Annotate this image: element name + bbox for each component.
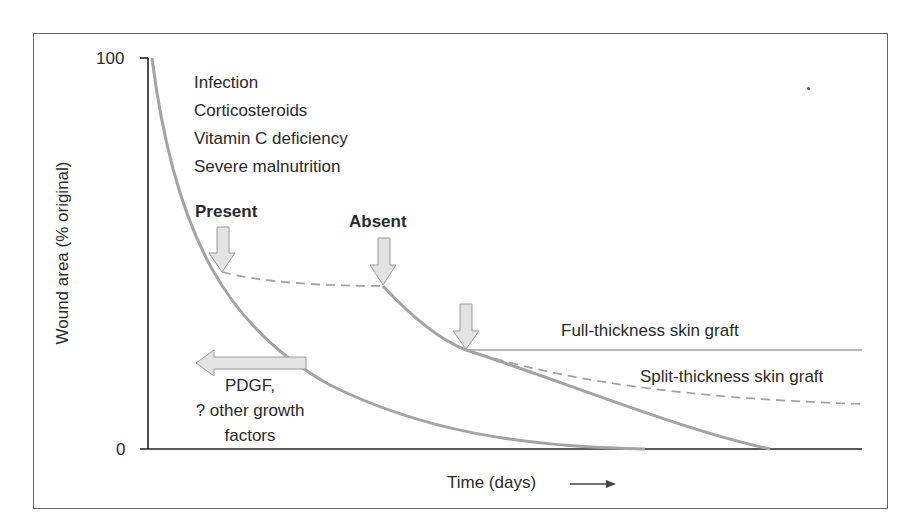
factor-infection: Infection (194, 74, 258, 91)
time-arrow-icon (570, 480, 616, 488)
absent-arrow-icon (370, 238, 396, 285)
x-axis-label: Time (days) (447, 474, 536, 491)
y-axis-label: Wound area (% original) (53, 162, 73, 345)
y-tick-label-100: 100 (96, 50, 124, 67)
growth-factor-line-1: PDGF, (180, 377, 320, 394)
present-arrow-icon (209, 227, 235, 272)
growth-factor-line-3: factors (180, 427, 320, 444)
factor-severe-malnutrition: Severe malnutrition (194, 158, 340, 175)
stray-dot (807, 87, 810, 90)
present-label: Present (195, 203, 257, 220)
plot-area (0, 0, 919, 527)
absent-label: Absent (349, 213, 407, 230)
growth-factor-arrow-icon (196, 350, 306, 376)
y-tick-label-0: 0 (116, 441, 125, 458)
factor-corticosteroids: Corticosteroids (194, 102, 307, 119)
factor-vitamin-c-deficiency: Vitamin C deficiency (194, 130, 348, 147)
growth-factor-line-2: ? other growth (170, 402, 330, 419)
graft-arrow-icon (453, 304, 479, 349)
full-thickness-graft-label: Full-thickness skin graft (561, 322, 739, 339)
split-thickness-graft-label: Split-thickness skin graft (640, 368, 823, 385)
impaired-plateau-curve (222, 272, 383, 286)
